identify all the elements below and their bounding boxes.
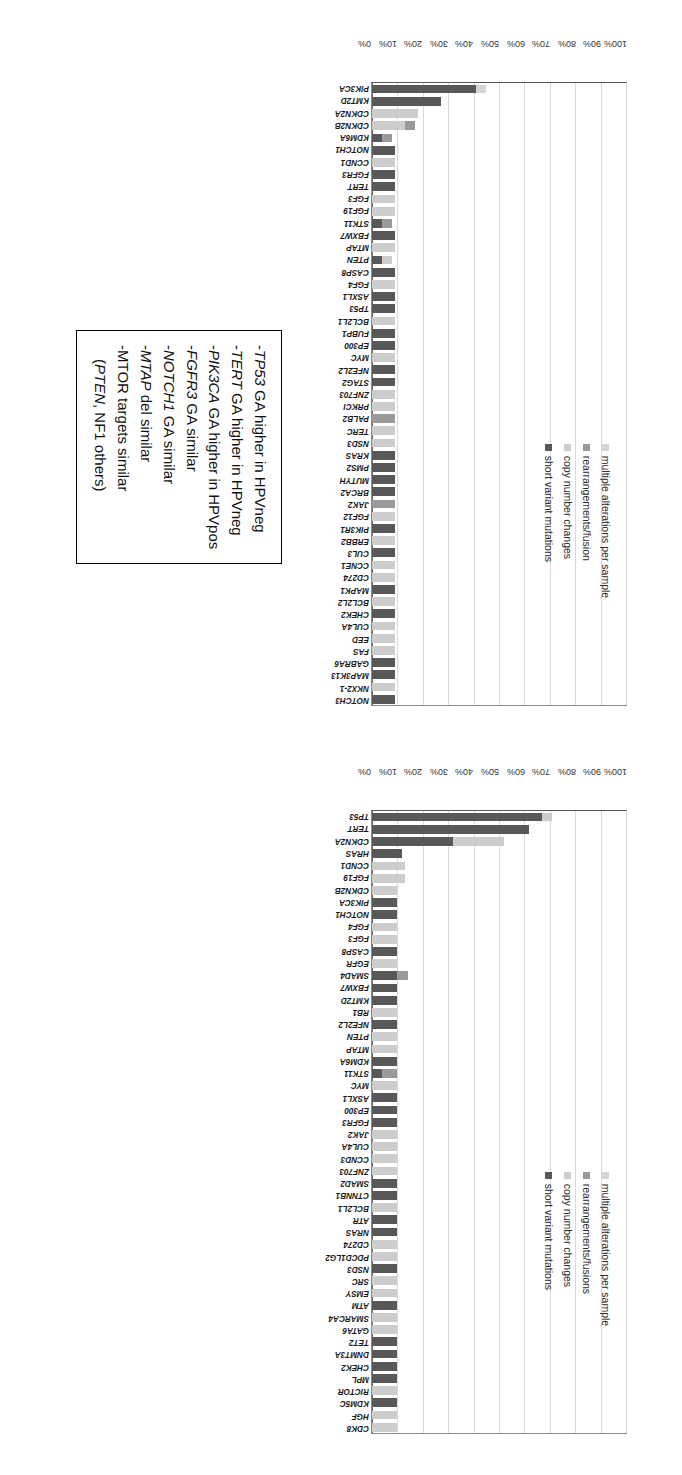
x-axis-label: FGF12 (318, 510, 370, 522)
x-axis-label: RB1 (318, 1006, 370, 1018)
x-axis-label: ZNF703 (318, 388, 370, 400)
x-axis-label: CD274 (318, 571, 370, 583)
bar-segment (372, 500, 395, 509)
legend-swatch (584, 444, 591, 451)
bar-stack (372, 231, 626, 240)
bar-group (372, 95, 626, 107)
bar-group (372, 1348, 626, 1360)
callout-line: -NOTCH1 GA similar (157, 345, 180, 549)
x-axis-label: PRKCI (318, 400, 370, 412)
bar-segment (372, 561, 395, 570)
callout-line: -PIK3CA GA higher in HPVpos (203, 345, 226, 549)
bar-group (372, 351, 626, 363)
callout-line: -MTAP del similar (134, 345, 157, 549)
bar-series-hpv-negative (372, 811, 626, 1433)
bar-segment (372, 609, 395, 618)
bar-segment (372, 268, 395, 277)
bar-segment (372, 231, 395, 240)
bar-stack (372, 670, 626, 679)
x-axis-label: FUBP1 (318, 327, 370, 339)
bar-stack (372, 341, 626, 350)
x-axis-label: CDKN2A (318, 834, 370, 846)
bar-segment (397, 971, 407, 980)
bar-segment (372, 365, 395, 374)
bar-group (372, 1397, 626, 1409)
legend-item: copy number changes (562, 1172, 574, 1326)
bar-stack (372, 390, 626, 399)
bar-stack (372, 1045, 626, 1054)
bar-stack (372, 1081, 626, 1090)
bar-segment (372, 1081, 397, 1090)
x-axis-label: CTNNB1 (318, 1189, 370, 1201)
bar-segment (372, 548, 395, 557)
x-axis-label: ZNF703 (318, 1165, 370, 1177)
x-axis-label: FGF3 (318, 932, 370, 944)
x-axis-label: CCND1 (318, 859, 370, 871)
x-axis-label: FGF19 (318, 204, 370, 216)
x-axis-label: CCNE1 (318, 559, 370, 571)
legend-swatch (603, 1172, 610, 1179)
bar-stack (372, 1411, 626, 1420)
bar-stack (372, 959, 626, 968)
bar-group (372, 217, 626, 229)
bar-segment (382, 134, 392, 143)
bar-group (372, 327, 626, 339)
bar-segment (372, 85, 476, 94)
x-axis-label: CCND3 (318, 1153, 370, 1165)
bar-stack (372, 243, 626, 252)
legend-label: short variant mutations (543, 456, 555, 562)
bar-segment (372, 109, 418, 118)
x-axis-label: CD274 (318, 1238, 370, 1250)
bar-segment (372, 536, 395, 545)
bar-stack (372, 658, 626, 667)
x-axis-label: EP300 (318, 1104, 370, 1116)
bar-segment (372, 121, 405, 130)
x-axis-label: PTEN (318, 253, 370, 265)
bar-group (372, 388, 626, 400)
bar-stack (372, 1118, 626, 1127)
bar-segment (372, 837, 453, 846)
bar-stack (372, 622, 626, 631)
bar-segment (372, 646, 395, 655)
bar-segment (372, 1374, 397, 1383)
bar-stack (372, 292, 626, 301)
legend-swatch (546, 444, 553, 451)
bar-group (372, 1336, 626, 1348)
x-axis-label: FGFR3 (318, 168, 370, 180)
x-axis-label: FGF3 (318, 192, 370, 204)
legend-swatch (584, 1172, 591, 1179)
bar-stack (372, 886, 626, 895)
bar-stack (372, 862, 626, 871)
bar-group (372, 1421, 626, 1433)
bar-stack (372, 947, 626, 956)
bar-group (372, 982, 626, 994)
bar-segment (372, 1215, 397, 1224)
bar-group (372, 644, 626, 656)
bar-segment (372, 683, 395, 692)
callout-line: -FGFR3 GA similar (180, 345, 203, 549)
x-axis-label: CDKN2B (318, 883, 370, 895)
bar-group (372, 120, 626, 132)
x-axis-labels-hpv-negative: TP53TERTCDKN2AHRASCCND1FGF19CDKN2BPIK3CA… (318, 810, 370, 1434)
bar-group (372, 681, 626, 693)
bar-segment (372, 207, 395, 216)
bar-stack (372, 414, 626, 423)
bar-group (372, 1092, 626, 1104)
bar-segment (372, 451, 395, 460)
bar-segment (372, 935, 397, 944)
bar-group (372, 896, 626, 908)
x-axis-label: CUL4A (318, 1140, 370, 1152)
bar-group (372, 229, 626, 241)
bar-segment (372, 1093, 397, 1102)
bar-stack (372, 268, 626, 277)
bar-segment (372, 1362, 397, 1371)
x-axis-label: MTAP (318, 241, 370, 253)
bar-segment (372, 825, 529, 834)
x-axis-label: MPL (318, 1373, 370, 1385)
bar-group (372, 168, 626, 180)
bar-stack (372, 1142, 626, 1151)
bar-stack (372, 1069, 626, 1078)
bar-segment (372, 487, 395, 496)
bar-segment (372, 524, 395, 533)
bar-segment (372, 1386, 397, 1395)
